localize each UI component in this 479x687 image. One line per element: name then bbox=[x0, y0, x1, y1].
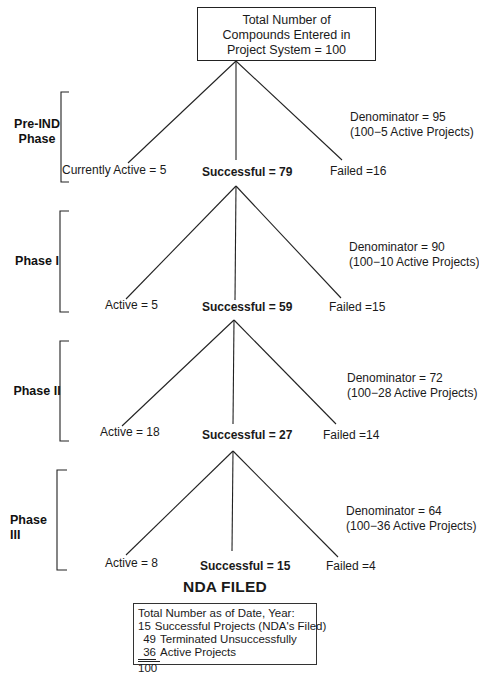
phase-label-line: Phase bbox=[12, 132, 62, 147]
phase2-failed-label: Failed =14 bbox=[323, 428, 379, 442]
branch-phase1-successful bbox=[235, 186, 236, 300]
summary-text: Successful Projects (NDA's Filed) bbox=[155, 620, 327, 633]
branch-phase3-active bbox=[126, 451, 233, 555]
denominator-note: (100−36 Active Projects) bbox=[346, 519, 476, 534]
phase1-failed-label: Failed =15 bbox=[329, 300, 385, 314]
denominator-note: (100−5 Active Projects) bbox=[350, 125, 474, 140]
summary-total-row: 100 bbox=[138, 660, 312, 675]
preind-denominator: Denominator = 95 (100−5 Active Projects) bbox=[350, 110, 474, 140]
phase-label-preind: Pre-IND Phase bbox=[12, 117, 62, 147]
phase2-successful-label: Successful = 27 bbox=[202, 428, 292, 442]
branch-phase2-active bbox=[122, 320, 234, 426]
phase3-active-label: Active = 8 bbox=[105, 556, 158, 570]
phase-label-phase1: Phase I bbox=[12, 254, 62, 269]
summary-text: Terminated Unsuccessfully bbox=[160, 633, 297, 646]
denominator-value: Denominator = 64 bbox=[346, 504, 476, 519]
phase2-denominator: Denominator = 72 (100−28 Active Projects… bbox=[347, 371, 477, 401]
phase-label-phase2: Phase II bbox=[12, 384, 62, 399]
phase-label-line: Phase III bbox=[10, 513, 58, 543]
phase2-active-label: Active = 18 bbox=[100, 425, 160, 439]
branch-preind-active bbox=[128, 61, 236, 163]
summary-row: 15 Successful Projects (NDA's Filed) bbox=[138, 620, 312, 633]
denominator-note: (100−28 Active Projects) bbox=[347, 386, 477, 401]
preind-active-label: Currently Active = 5 bbox=[62, 163, 166, 177]
branch-phase3-failed bbox=[233, 451, 338, 557]
summary-box: Total Number as of Date, Year: 15 Succes… bbox=[133, 603, 317, 665]
phase-label-line: Phase I bbox=[12, 254, 62, 269]
branch-preind-failed bbox=[236, 61, 342, 160]
branch-phase2-successful bbox=[233, 320, 234, 424]
phase3-successful-label: Successful = 15 bbox=[200, 559, 290, 573]
top-box-line: Project System = 100 bbox=[198, 43, 375, 58]
denominator-note: (100−10 Active Projects) bbox=[349, 255, 479, 270]
top-box-line: Compounds Entered in bbox=[198, 28, 375, 43]
preind-failed-label: Failed =16 bbox=[330, 164, 386, 178]
phase-label-line: Phase II bbox=[12, 384, 62, 399]
denominator-value: Denominator = 95 bbox=[350, 110, 474, 125]
preind-successful-label: Successful = 79 bbox=[202, 165, 292, 179]
top-box-line: Total Number of bbox=[198, 13, 375, 28]
bracket-phase3 bbox=[57, 470, 67, 570]
summary-text: Active Projects bbox=[160, 646, 236, 660]
phase3-denominator: Denominator = 64 (100−36 Active Projects… bbox=[346, 504, 476, 534]
branch-phase2-failed bbox=[234, 320, 336, 424]
phase1-successful-label: Successful = 59 bbox=[202, 300, 292, 314]
denominator-value: Denominator = 90 bbox=[349, 240, 479, 255]
phase-label-line: Pre-IND bbox=[12, 117, 62, 132]
total-compounds-box: Total Number of Compounds Entered in Pro… bbox=[197, 7, 376, 61]
branch-phase1-active bbox=[126, 186, 236, 299]
phase1-denominator: Denominator = 90 (100−10 Active Projects… bbox=[349, 240, 479, 270]
summary-heading: Total Number as of Date, Year: bbox=[138, 607, 312, 620]
phase3-failed-label: Failed =4 bbox=[326, 559, 376, 573]
summary-total: 100 bbox=[138, 661, 160, 675]
branch-phase1-failed bbox=[236, 186, 341, 298]
nda-filed-title: NDA FILED bbox=[183, 578, 267, 596]
summary-row: 36 Active Projects bbox=[138, 646, 312, 660]
phase-label-phase3: Phase III bbox=[10, 513, 58, 543]
summary-count: 36 bbox=[138, 646, 156, 660]
branch-phase3-successful bbox=[232, 451, 233, 551]
summary-row: 49 Terminated Unsuccessfully bbox=[138, 633, 312, 646]
summary-count: 49 bbox=[138, 633, 156, 646]
phase1-active-label: Active = 5 bbox=[105, 298, 158, 312]
denominator-value: Denominator = 72 bbox=[347, 371, 477, 386]
summary-count: 15 bbox=[138, 620, 151, 633]
